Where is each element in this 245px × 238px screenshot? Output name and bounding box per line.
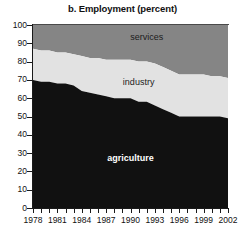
y-tick-mark-10 [27,190,32,191]
y-tick-mark-70 [27,80,32,81]
x-tick-mark-1998 [196,209,197,213]
y-tick-label-60: 60 [0,94,27,103]
employment-stacked-area-chart: b. Employment (percent) 0102030405060708… [0,0,245,238]
x-tick-mark-1981 [57,209,58,213]
y-tick-mark-90 [27,43,32,44]
x-tick-mark-1982 [66,209,67,213]
y-tick-label-40: 40 [0,130,27,139]
band-label-agriculture: agriculture [107,153,154,163]
x-tick-mark-1985 [90,209,91,213]
x-tick-mark-1999 [204,209,205,213]
x-tick-mark-1986 [98,209,99,213]
x-tick-mark-1994 [163,209,164,213]
plot-area [33,25,228,208]
x-tick-mark-2002 [228,209,229,213]
y-tick-mark-30 [27,153,32,154]
y-tick-label-0: 0 [0,204,27,213]
y-tick-mark-50 [27,117,32,118]
y-tick-label-10: 10 [0,185,27,194]
x-tick-mark-2000 [212,209,213,213]
x-tick-mark-1996 [179,209,180,213]
x-tick-mark-1991 [139,209,140,213]
y-tick-label-50: 50 [0,112,27,121]
y-tick-mark-20 [27,171,32,172]
x-tick-mark-1988 [114,209,115,213]
band-label-industry: industry [123,77,155,87]
x-tick-mark-1979 [41,209,42,213]
y-tick-mark-100 [27,25,32,26]
x-tick-mark-1995 [171,209,172,213]
y-tick-label-80: 80 [0,57,27,66]
x-tick-mark-1989 [122,209,123,213]
y-tick-mark-40 [27,135,32,136]
x-tick-mark-1980 [49,209,50,213]
y-tick-label-100: 100 [0,21,27,30]
x-tick-mark-1983 [74,209,75,213]
y-tick-mark-60 [27,98,32,99]
y-tick-label-90: 90 [0,39,27,48]
x-tick-mark-2001 [220,209,221,213]
x-tick-mark-1990 [131,209,132,213]
x-tick-mark-1993 [155,209,156,213]
x-tick-mark-1978 [33,209,34,213]
y-tick-label-70: 70 [0,75,27,84]
x-tick-label-2002: 2002 [213,216,243,225]
y-tick-mark-0 [27,208,32,209]
chart-title: b. Employment (percent) [0,3,245,14]
y-tick-mark-80 [27,62,32,63]
band-label-services: services [130,32,163,42]
y-tick-label-30: 30 [0,149,27,158]
x-tick-mark-1984 [82,209,83,213]
x-tick-mark-1992 [147,209,148,213]
x-tick-mark-1987 [106,209,107,213]
stacked-area-svg [33,25,228,208]
y-tick-label-20: 20 [0,167,27,176]
x-tick-mark-1997 [187,209,188,213]
